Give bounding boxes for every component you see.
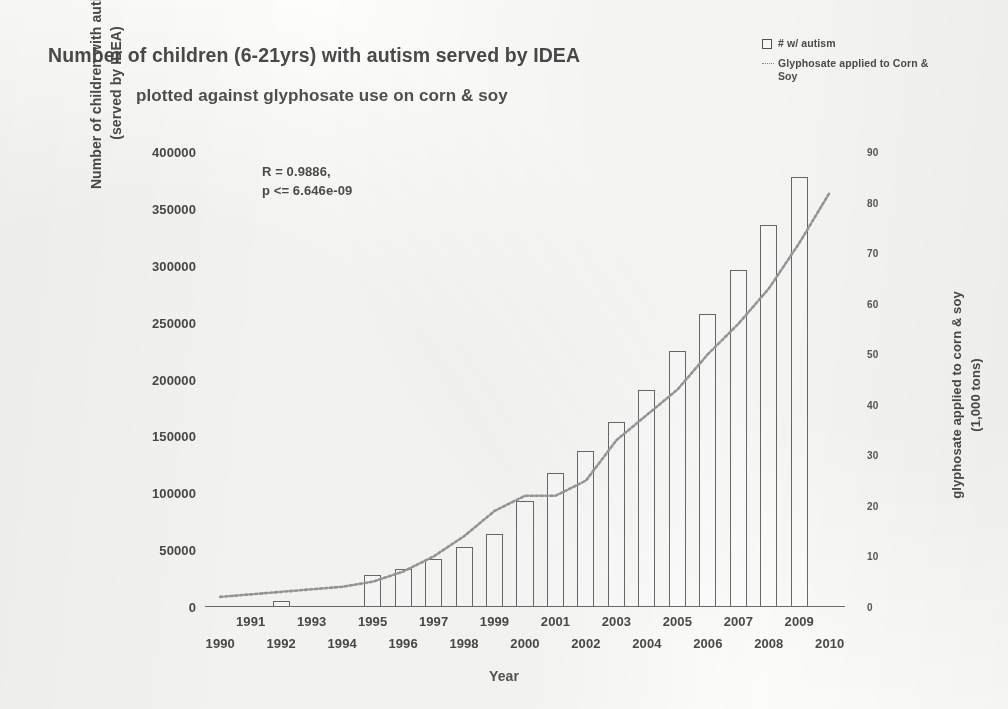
y-axis-right-tick-label: 20	[867, 500, 878, 511]
x-axis-tick-label: 1997	[419, 614, 448, 629]
x-axis-tick-label: 2010	[815, 636, 844, 651]
legend-item-glyphosate: Glyphosate applied to Corn & Soy	[762, 57, 932, 83]
glyphosate-line-series	[205, 152, 845, 607]
x-axis-tick-label: 2004	[632, 636, 661, 651]
y-axis-left-title: Number of children with autism (served b…	[86, 0, 127, 248]
open-square-icon	[762, 39, 772, 49]
x-axis-tick-label: 2008	[754, 636, 783, 651]
y-axis-right-tick-label: 40	[867, 399, 878, 410]
y-axis-left-tick-label: 400000	[152, 145, 196, 160]
x-axis-tick-label: 2000	[510, 636, 539, 651]
legend-item-glyphosate-label: Glyphosate applied to Corn & Soy	[778, 57, 932, 83]
y-axis-left-tick-label: 350000	[152, 201, 196, 216]
x-axis-tick-label: 1994	[327, 636, 356, 651]
y-axis-right-tick-label: 90	[867, 147, 878, 158]
x-axis-tick-label: 2007	[724, 614, 753, 629]
y-axis-left-tick-label: 200000	[152, 372, 196, 387]
y-axis-right-tick-label: 0	[867, 602, 873, 613]
x-axis-tick-label: 1992	[267, 636, 296, 651]
chart-title-line-1: Number of children (6-21yrs) with autism…	[48, 44, 728, 67]
x-axis-tick-label: 1999	[480, 614, 509, 629]
chart-title-block: Number of children (6-21yrs) with autism…	[48, 44, 728, 106]
x-axis-tick-label: 1995	[358, 614, 387, 629]
x-axis-tick-label: 2001	[541, 614, 570, 629]
x-axis-tick-label: 1991	[236, 614, 265, 629]
y-axis-right-tick-label: 50	[867, 349, 878, 360]
x-axis-tick-label: 2009	[785, 614, 814, 629]
x-axis-tick-label: 2002	[571, 636, 600, 651]
y-axis-right-tick-label: 10	[867, 551, 878, 562]
glyphosate-line	[220, 192, 830, 596]
y-axis-right-tick-label: 60	[867, 298, 878, 309]
x-axis-tick-label: 2003	[602, 614, 631, 629]
y-axis-left-tick-label: 150000	[152, 429, 196, 444]
x-axis-tick-label: 2006	[693, 636, 722, 651]
legend-item-autism: # w/ autism	[762, 37, 932, 50]
plot-area: 0500001000001500002000002500003000003500…	[205, 152, 845, 607]
y-axis-left-tick-label: 100000	[152, 486, 196, 501]
y-axis-right-tick-label: 30	[867, 450, 878, 461]
x-axis-title: Year	[0, 668, 1008, 684]
x-axis-tick-label: 1996	[388, 636, 417, 651]
x-axis-tick-label: 1998	[449, 636, 478, 651]
y-axis-right-tick-label: 80	[867, 197, 878, 208]
chart-legend: # w/ autism Glyphosate applied to Corn &…	[762, 37, 932, 90]
x-axis-tick-label: 2005	[663, 614, 692, 629]
x-axis-tick-label: 1993	[297, 614, 326, 629]
y-axis-left-tick-label: 0	[189, 600, 196, 615]
y-axis-right-tick-label: 70	[867, 248, 878, 259]
y-axis-left-tick-label: 50000	[159, 543, 196, 558]
y-axis-left-tick-label: 250000	[152, 315, 196, 330]
y-axis-right-title: glyphosate applied to corn & soy (1,000 …	[948, 230, 986, 560]
x-axis-tick-label: 1990	[206, 636, 235, 651]
legend-item-autism-label: # w/ autism	[778, 37, 836, 50]
y-axis-left-tick-label: 300000	[152, 258, 196, 273]
chart-title-line-2: plotted against glyphosate use on corn &…	[136, 86, 728, 106]
dotted-line-icon	[762, 63, 774, 64]
